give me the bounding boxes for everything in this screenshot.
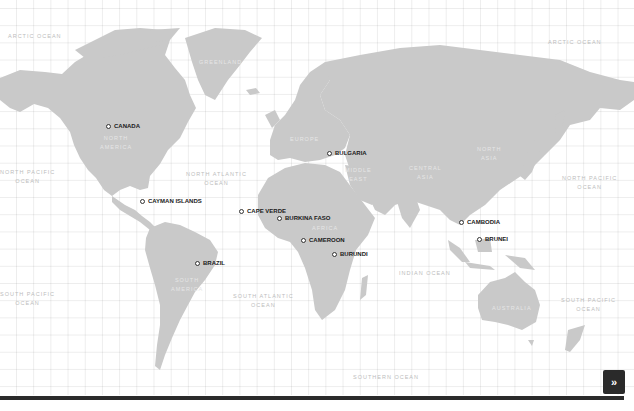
marker-label: CANADA (114, 123, 140, 129)
marker-brunei[interactable]: BRUNEI (477, 236, 508, 242)
ocean-label-southern-ocean: SOUTHERN OCEAN (353, 373, 419, 382)
marker-dot-icon (332, 252, 337, 257)
ocean-label-south-atlantic-ocean: SOUTH ATLANTIC OCEAN (233, 292, 294, 310)
region-label-australia: AUSTRALIA (492, 304, 532, 313)
marker-label: BRAZIL (203, 260, 225, 266)
marker-label: BULGARIA (335, 150, 367, 156)
marker-canada[interactable]: CANADA (106, 123, 140, 129)
bottom-bar (0, 396, 624, 400)
marker-cayman-islands[interactable]: CAYMAN ISLANDS (140, 198, 202, 204)
ocean-label-arctic-ocean: ARCTIC OCEAN (8, 32, 62, 41)
region-label-africa: AFRICA (312, 224, 338, 233)
region-label-north-asia: NORTH ASIA (477, 145, 501, 163)
marker-dot-icon (477, 237, 482, 242)
marker-bulgaria[interactable]: BULGARIA (327, 150, 367, 156)
marker-cape-verde[interactable]: CAPE VERDE (239, 208, 286, 214)
australia-shape (478, 272, 540, 330)
region-label-north-america: NORTH AMERICA (100, 134, 132, 152)
marker-burkina-faso[interactable]: BURKINA FASO (277, 215, 330, 221)
ocean-label-north-pacific-ocean: NORTH PACIFIC OCEAN (0, 168, 55, 186)
marker-label: CAPE VERDE (247, 208, 286, 214)
ocean-label-south-pacific-ocean: SOUTH PACIFIC OCEAN (561, 296, 616, 314)
south-america-shape (145, 222, 218, 370)
marker-dot-icon (459, 220, 464, 225)
marker-dot-icon (327, 151, 332, 156)
marker-label: BRUNEI (485, 236, 508, 242)
region-label-middle-east: MIDDLE EAST (345, 166, 372, 184)
marker-label: CAMBODIA (467, 219, 500, 225)
marker-label: CAYMAN ISLANDS (148, 198, 202, 204)
marker-label: BURKINA FASO (285, 215, 330, 221)
marker-cambodia[interactable]: CAMBODIA (459, 219, 500, 225)
marker-dot-icon (239, 209, 244, 214)
marker-dot-icon (106, 124, 111, 129)
marker-label: CAMEROON (309, 237, 345, 243)
land-masses (0, 0, 634, 395)
marker-dot-icon (140, 199, 145, 204)
region-label-europe: EUROPE (290, 135, 319, 144)
region-label-south-america: SOUTH AMERICA (171, 276, 203, 294)
double-chevron-right-icon: » (611, 376, 617, 388)
region-label-greenland: GREENLAND (199, 58, 242, 67)
marker-dot-icon (277, 216, 282, 221)
ocean-label-indian-ocean: INDIAN OCEAN (399, 269, 451, 278)
world-map[interactable]: GREENLANDNORTH AMERICAEUROPEMIDDLE EASTC… (0, 0, 634, 395)
marker-burundi[interactable]: BURUNDI (332, 251, 368, 257)
ocean-label-south-pacific-ocean: SOUTH PACIFIC OCEAN (0, 290, 55, 308)
marker-dot-icon (301, 238, 306, 243)
marker-dot-icon (195, 261, 200, 266)
marker-label: BURUNDI (340, 251, 368, 257)
marker-cameroon[interactable]: CAMEROON (301, 237, 345, 243)
ocean-label-north-atlantic-ocean: NORTH ATLANTIC OCEAN (186, 170, 247, 188)
ocean-label-north-pacific-ocean: NORTH PACIFIC OCEAN (562, 174, 617, 192)
ocean-label-arctic-ocean: ARCTIC OCEAN (548, 38, 602, 47)
marker-brazil[interactable]: BRAZIL (195, 260, 225, 266)
region-label-central-asia: CENTRAL ASIA (409, 164, 442, 182)
next-button[interactable]: » (603, 370, 625, 394)
